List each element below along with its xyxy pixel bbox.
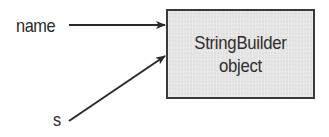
arrow-s-to-object [69, 56, 165, 121]
object-subtitle: object [219, 54, 262, 77]
reference-diagram: name s StringBuilder object [0, 0, 329, 137]
stringbuilder-object-box: StringBuilder object [166, 9, 315, 99]
object-title: StringBuilder [194, 31, 286, 54]
